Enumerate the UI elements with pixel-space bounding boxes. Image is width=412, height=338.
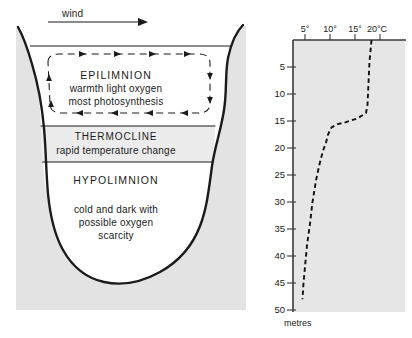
y-tick-label-20: 20 xyxy=(265,142,285,153)
y-tick-label-40: 40 xyxy=(265,250,285,261)
hypolimnion-line-2: possible oxygen xyxy=(0,217,232,228)
thermocline-line-1: rapid temperature change xyxy=(0,145,232,156)
chart-plot-background xyxy=(293,40,405,312)
hypolimnion-line-1: cold and dark with xyxy=(0,204,232,215)
wind-label: wind xyxy=(62,8,83,19)
y-tick-label-35: 35 xyxy=(265,223,285,234)
hypolimnion-title: HYPOLIMNION xyxy=(0,174,232,186)
lake-stratification-figure xyxy=(0,0,412,338)
wind-arrow xyxy=(48,18,148,26)
depth-axis-label: metres xyxy=(284,318,312,328)
temperature-depth-chart xyxy=(287,34,406,312)
y-tick-label-5: 5 xyxy=(265,61,285,72)
hypolimnion-line-3: scarcity xyxy=(0,230,232,241)
y-tick-label-50: 50 xyxy=(265,304,285,315)
thermocline-title: THERMOCLINE xyxy=(0,131,232,142)
y-tick-label-10: 10 xyxy=(265,88,285,99)
x-tick-label-15: 15° xyxy=(340,24,370,34)
y-tick-label-25: 25 xyxy=(265,169,285,180)
epilimnion-line-1: warmth light oxygen xyxy=(0,83,232,94)
x-tick-label-20C: 20°C xyxy=(367,24,405,34)
lake-cross-section xyxy=(16,18,246,310)
y-tick-label-15: 15 xyxy=(265,115,285,126)
epilimnion-title: EPILIMNION xyxy=(0,69,232,81)
y-tick-label-45: 45 xyxy=(265,277,285,288)
temperature-axis-ticks xyxy=(305,34,380,40)
epilimnion-line-2: most photosynthesis xyxy=(0,96,232,107)
y-tick-label-30: 30 xyxy=(265,196,285,207)
